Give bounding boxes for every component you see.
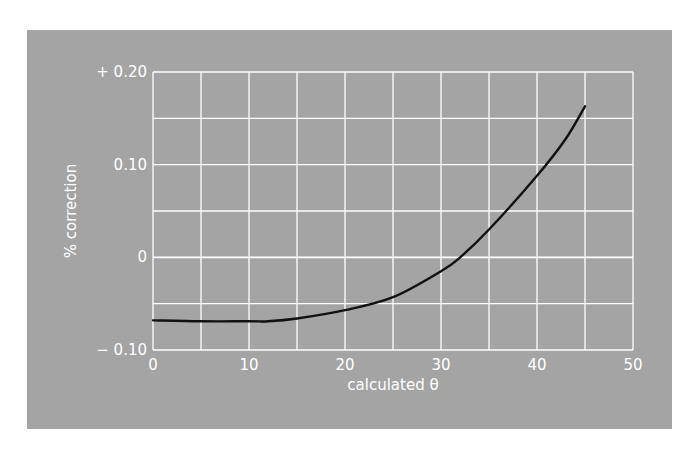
x-axis-ticks: 01020304050 — [148, 356, 642, 374]
y-tick-label: 0 — [137, 248, 147, 266]
y-axis-ticks: − 0.1000.10+ 0.20 — [96, 63, 147, 359]
x-tick-label: 0 — [148, 356, 158, 374]
line-chart: − 0.1000.10+ 0.20 01020304050 calculated… — [0, 0, 696, 458]
y-axis-label: % correction — [62, 164, 80, 258]
x-tick-label: 20 — [335, 356, 354, 374]
y-tick-label: + 0.20 — [96, 63, 147, 81]
y-tick-label: 0.10 — [114, 156, 147, 174]
x-tick-label: 30 — [431, 356, 450, 374]
correction-curve — [153, 106, 585, 321]
x-axis-label: calculated θ — [347, 376, 438, 394]
x-tick-label: 50 — [623, 356, 642, 374]
x-tick-label: 10 — [239, 356, 258, 374]
chart-grid — [153, 72, 633, 350]
x-tick-label: 40 — [527, 356, 546, 374]
y-tick-label: − 0.10 — [96, 341, 147, 359]
